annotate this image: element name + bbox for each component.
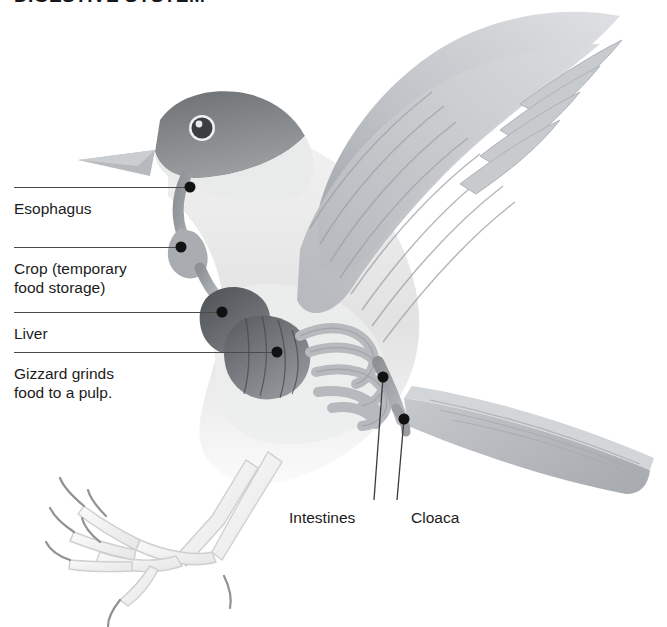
label-gizzard-line2: food to a pulp. — [14, 383, 114, 402]
label-cloaca: Cloaca — [411, 508, 459, 527]
cloaca-leader-dot — [399, 414, 410, 425]
label-intestines-line1: Intestines — [289, 508, 355, 527]
label-esophagus: Esophagus — [14, 199, 92, 218]
liver-rule — [14, 312, 222, 313]
label-liver: Liver — [14, 324, 48, 343]
intestines-leader-dot — [378, 372, 389, 383]
label-gizzard-line1: Gizzard grinds — [14, 364, 114, 383]
label-esophagus-line1: Esophagus — [14, 199, 92, 218]
bird-head — [78, 91, 314, 201]
crop-rule — [14, 247, 181, 248]
digestive-system-figure: DIGESTIVE SYSTEM — [0, 0, 667, 627]
bird-legs — [46, 452, 282, 626]
label-liver-line1: Liver — [14, 324, 48, 343]
bird-tail — [404, 386, 654, 494]
label-cloaca-line1: Cloaca — [411, 508, 459, 527]
esophagus-leader-dot — [185, 182, 196, 193]
bird-wing — [297, 12, 622, 342]
crop-leader-dot — [176, 242, 187, 253]
label-crop-line2: food storage) — [14, 278, 127, 297]
label-gizzard: Gizzard grinds food to a pulp. — [14, 364, 114, 402]
gizzard-rule — [14, 352, 277, 353]
gizzard-leader-dot — [272, 347, 283, 358]
liver-leader-dot — [217, 307, 228, 318]
label-intestines: Intestines — [289, 508, 355, 527]
bird-illustration — [0, 0, 667, 627]
label-crop: Crop (temporary food storage) — [14, 259, 127, 297]
esophagus-rule — [14, 187, 190, 188]
label-crop-line1: Crop (temporary — [14, 259, 127, 278]
